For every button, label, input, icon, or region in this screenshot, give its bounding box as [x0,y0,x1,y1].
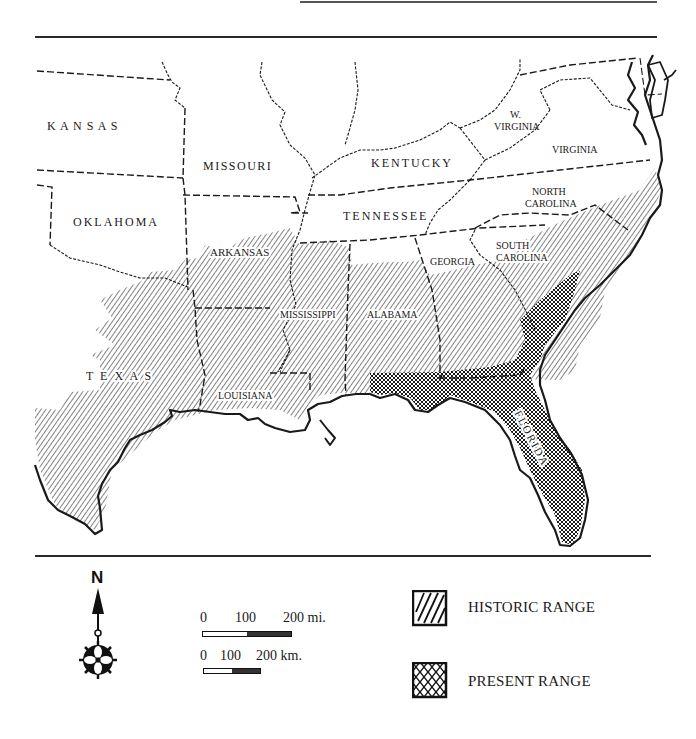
present-range-label: PRESENT RANGE [468,673,591,690]
scale-mi-0: 0 [200,610,207,626]
label-georgia: GEORGIA [430,256,476,267]
label-kentucky: KENTUCKY [371,156,453,170]
label-missouri: MISSOURI [203,159,272,173]
label-south-carolina-2: CAROLINA [496,252,548,263]
label-virginia: VIRGINIA [552,144,598,155]
present-range-swatch-icon [412,662,448,699]
north-arrow: N [78,568,128,683]
north-label: N [91,568,103,588]
historic-range-label: HISTORIC RANGE [468,599,595,616]
label-texas: T E X A S [86,369,153,383]
label-arkansas: ARKANSAS [210,246,269,258]
label-kansas: K A N S A S [47,119,118,133]
scale-km-200: 200 km. [256,648,302,664]
legend: HISTORIC RANGE PRESENT RANGE [410,585,660,725]
scale-mi-200: 200 mi. [283,610,326,626]
scale-mi-100: 100 [235,610,256,626]
historic-range-swatch-icon [412,590,448,627]
scale-mi-bar [202,631,292,637]
label-north-carolina-1: NORTH [532,186,566,197]
label-north-carolina-2: CAROLINA [525,198,577,209]
scale-km-bar [203,668,261,674]
southeast-us-map: K A N S A S MISSOURI OKLAHOMA ARKANSAS K… [0,0,696,560]
scale-km-100: 100 [220,648,241,664]
label-louisiana: LOUISIANA [218,390,273,401]
label-w-virginia-1: W. [510,109,521,120]
label-w-virginia-2: VIRGINIA [494,121,540,132]
label-alabama: ALABAMA [367,309,418,320]
label-south-carolina-1: SOUTH [496,240,529,251]
label-oklahoma: OKLAHOMA [73,215,159,229]
label-mississippi: MISSISSIPPI [280,309,336,320]
scale-km-0: 0 [200,648,207,664]
scale-bar-kilometers: 0 100 200 km. [200,648,320,678]
label-tennessee: TENNESSEE [343,209,428,223]
scale-bar-miles: 0 100 200 mi. [200,610,340,640]
compass-rose-icon [78,586,128,686]
